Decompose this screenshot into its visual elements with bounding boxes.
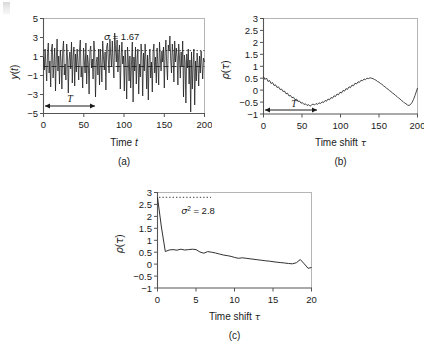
ytick-3: 3 <box>147 187 152 198</box>
ytick-2p5: 2.5 <box>245 25 258 36</box>
xtick-20: 20 <box>306 294 317 305</box>
panel-c-xtick-labels: 0 5 10 15 20 <box>155 294 317 305</box>
xtick-200: 200 <box>410 120 424 131</box>
panel-c-xlabel: Time shift τ <box>209 311 261 322</box>
ytick-2p5: 2.5 <box>139 199 152 210</box>
ytick-0: 0 <box>253 85 258 96</box>
xtick-150: 150 <box>156 119 172 130</box>
xtick-50: 50 <box>79 119 90 130</box>
panel-a-ylabel: y(t) <box>9 65 20 80</box>
ytick-neg5: −5 <box>27 108 38 119</box>
xtick-0: 0 <box>41 119 46 130</box>
panel-b-series <box>264 77 418 107</box>
panel-a-period-label: T <box>67 93 74 104</box>
xtick-150: 150 <box>371 120 387 131</box>
ytick-neg0p5: −0.5 <box>239 97 258 108</box>
panel-a-period-bracket: T <box>45 93 95 109</box>
panel-c-caption: (c) <box>229 330 241 341</box>
xtick-10: 10 <box>229 294 240 305</box>
ytick-2: 2 <box>147 211 152 222</box>
panel-c-ylabel: ρ(τ) <box>114 234 125 253</box>
panel-a-sigma-annotation: σ = 1.67 <box>104 31 139 42</box>
ytick-1: 1 <box>33 51 38 62</box>
panel-b-xtick-labels: 0 50 100 150 200 <box>261 120 424 131</box>
ytick-1p5: 1.5 <box>139 223 152 234</box>
panel-c: ρ(τ) 3 2.5 2 1.5 1 0.5 0 −0.5 −1 <box>106 174 318 348</box>
xtick-200: 200 <box>197 119 212 130</box>
ytick-1p5: 1.5 <box>245 49 258 60</box>
panel-b-ytick-labels: 3 2.5 2 1.5 1 0.5 0 −0.5 −1 <box>239 13 258 120</box>
xtick-100: 100 <box>333 120 349 131</box>
xtick-100: 100 <box>116 119 132 130</box>
ytick-neg1: −1 <box>141 283 152 294</box>
ytick-5: 5 <box>33 13 38 24</box>
ytick-neg3: −3 <box>27 89 38 100</box>
panel-a-xtick-labels: 0 50 100 150 200 <box>41 119 212 130</box>
panel-b: ρ(τ) 3 2.5 2 1.5 1 0.5 0 −0.5 −1 <box>212 0 424 174</box>
xtick-0: 0 <box>261 120 266 131</box>
panel-b-period-label: T <box>291 98 298 109</box>
xtick-15: 15 <box>268 294 279 305</box>
panel-c-ytick-labels: 3 2.5 2 1.5 1 0.5 0 −0.5 −1 <box>133 187 152 294</box>
ytick-0: 0 <box>147 259 152 270</box>
panel-c-plot: ρ(τ) 3 2.5 2 1.5 1 0.5 0 −0.5 −1 <box>106 174 318 348</box>
panel-a: y(t) 5 3 1 −1 −3 −5 <box>0 0 212 174</box>
panel-b-xlabel: Time shift τ <box>315 137 367 148</box>
ytick-3: 3 <box>33 32 38 43</box>
panel-b-ylabel: ρ(τ) <box>220 60 231 79</box>
ytick-1: 1 <box>147 235 152 246</box>
ytick-0p5: 0.5 <box>139 247 152 258</box>
panel-a-ytick-labels: 5 3 1 −1 −3 −5 <box>27 13 38 119</box>
xtick-50: 50 <box>297 120 308 131</box>
ytick-2: 2 <box>253 37 258 48</box>
ytick-0p5: 0.5 <box>245 73 258 84</box>
ytick-neg0p5: −0.5 <box>133 271 152 282</box>
xtick-5: 5 <box>193 294 198 305</box>
panel-a-caption: (a) <box>118 156 130 167</box>
panel-c-variance-annotation: σ2 = 2.8 <box>181 205 215 217</box>
panel-b-plot: ρ(τ) 3 2.5 2 1.5 1 0.5 0 −0.5 −1 <box>212 0 424 174</box>
panel-a-plot: y(t) 5 3 1 −1 −3 −5 <box>0 0 212 174</box>
panel-a-xlabel: Time t <box>110 137 139 148</box>
ytick-3: 3 <box>253 13 258 24</box>
panel-b-caption: (b) <box>334 156 346 167</box>
ytick-neg1: −1 <box>247 109 258 120</box>
ytick-1: 1 <box>253 61 258 72</box>
ytick-neg1: −1 <box>27 70 38 81</box>
xtick-0: 0 <box>155 294 160 305</box>
